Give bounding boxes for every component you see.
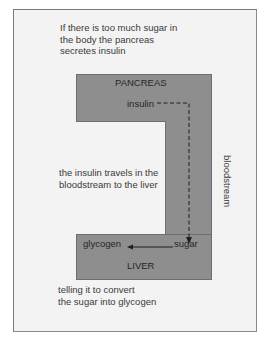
sugar-label: sugar — [174, 238, 198, 249]
intro-caption: If there is too much sugar in the body t… — [60, 22, 177, 57]
bloodstream-vessel — [165, 121, 212, 235]
travel-caption: the insulin travels in the bloodstream t… — [59, 167, 158, 190]
convert-caption: telling it to convert the sugar into gly… — [58, 284, 156, 307]
pancreas-label: PANCREAS — [115, 77, 167, 88]
bloodstream-label: bloodstream — [222, 155, 233, 207]
glycogen-label: glycogen — [83, 238, 121, 249]
liver-label: LIVER — [127, 260, 154, 271]
insulin-label: insulin — [127, 98, 154, 109]
